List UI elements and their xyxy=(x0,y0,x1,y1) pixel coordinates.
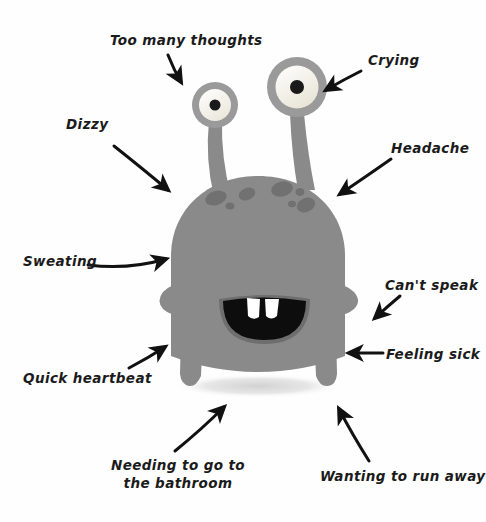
arrow-too-many-thoughts xyxy=(168,55,181,82)
eye-left-pupil xyxy=(210,100,221,111)
arrow-dizzy xyxy=(114,146,168,190)
arrow-wanting-to-run-away xyxy=(339,409,369,461)
label-feeling-sick: Feeling sick xyxy=(386,346,480,363)
eye-left xyxy=(192,82,238,128)
tooth-left xyxy=(247,298,260,319)
label-too-many-thoughts: Too many thoughts xyxy=(110,32,263,49)
arrow-cant-speak xyxy=(375,296,400,318)
label-crying: Crying xyxy=(368,52,420,69)
label-needing-bathroom-line1: Needing to go to xyxy=(108,456,248,474)
stalk-right xyxy=(290,114,315,190)
eye-right-pupil xyxy=(290,80,304,94)
label-quick-heartbeat: Quick heartbeat xyxy=(23,370,152,387)
label-needing-bathroom: Needing to go to the bathroom xyxy=(108,456,248,492)
spot xyxy=(296,188,305,196)
arrow-sweating xyxy=(88,259,166,267)
spot xyxy=(288,201,296,207)
label-cant-speak: Can't speak xyxy=(385,277,478,294)
arrow-needing-bathroom xyxy=(175,407,224,451)
arrow-crying xyxy=(326,71,361,90)
eye-right xyxy=(267,57,327,117)
tooth-right xyxy=(265,299,279,319)
label-headache: Headache xyxy=(391,140,469,157)
arrow-headache xyxy=(340,159,391,194)
label-needing-bathroom-line2: the bathroom xyxy=(108,474,248,492)
label-dizzy: Dizzy xyxy=(66,116,108,133)
spot xyxy=(226,203,235,210)
label-sweating: Sweating xyxy=(23,253,97,270)
arrow-quick-heartbeat xyxy=(129,347,165,368)
label-wanting-to-run-away: Wanting to run away xyxy=(320,468,485,485)
illustration-canvas: Too many thoughts Crying Dizzy Headache … xyxy=(0,0,486,522)
